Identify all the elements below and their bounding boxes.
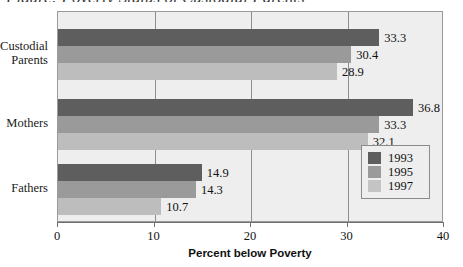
chart-legend: 199319951997 <box>361 145 430 199</box>
category-label-2: Fathers <box>0 181 53 195</box>
bar-1995-1 <box>58 116 379 133</box>
cut-off-title: Figure: Poverty Status of Custodial Pare… <box>0 0 463 2</box>
x-tick <box>154 222 155 227</box>
bar-row: 10.7 <box>58 198 442 215</box>
x-tick <box>250 222 251 227</box>
bar-1997-1 <box>58 133 368 150</box>
bar-1993-0 <box>58 29 379 46</box>
bar-group: 33.330.428.9 <box>58 29 442 80</box>
bar-row: 36.8 <box>58 99 442 116</box>
x-tick <box>443 222 444 227</box>
bar-value-label: 14.3 <box>196 182 223 197</box>
x-tick-label: 40 <box>437 229 450 244</box>
bar-1993-2 <box>58 164 202 181</box>
x-tick-label: 0 <box>54 229 60 244</box>
bar-value-label: 33.3 <box>379 30 406 45</box>
bar-1993-1 <box>58 99 413 116</box>
bar-1995-2 <box>58 181 196 198</box>
legend-label-1997: 1997 <box>388 180 413 193</box>
bar-value-label: 28.9 <box>337 64 364 79</box>
bar-row: 28.9 <box>58 63 442 80</box>
legend-row: 1997 <box>368 179 425 193</box>
bar-row: 30.4 <box>58 46 442 63</box>
legend-label-1995: 1995 <box>388 166 413 179</box>
legend-row: 1995 <box>368 165 425 179</box>
category-label-1: Mothers <box>0 116 53 130</box>
bar-value-label: 30.4 <box>351 47 378 62</box>
x-tick <box>347 222 348 227</box>
x-tick-label: 30 <box>340 229 353 244</box>
bar-value-label: 33.3 <box>379 117 406 132</box>
bar-1997-0 <box>58 63 337 80</box>
legend-swatch-1993 <box>368 152 381 164</box>
x-tick <box>57 222 58 227</box>
bar-1997-2 <box>58 198 161 215</box>
legend-label-1993: 1993 <box>388 152 413 165</box>
bar-group: 36.833.332.1 <box>58 99 442 150</box>
x-tick-label: 20 <box>244 229 257 244</box>
bar-value-label: 36.8 <box>413 100 440 115</box>
category-axis-labels: Custodial ParentsMothersFathers <box>0 11 53 222</box>
bar-row: 33.3 <box>58 29 442 46</box>
category-label-0: Custodial Parents <box>0 39 53 67</box>
x-axis-title: Percent below Poverty <box>57 247 443 259</box>
plot-area: 33.330.428.936.833.332.114.914.310.7 199… <box>57 11 443 222</box>
legend-swatch-1997 <box>368 180 381 192</box>
bar-row: 33.3 <box>58 116 442 133</box>
bar-1995-0 <box>58 46 351 63</box>
x-tick-label: 10 <box>147 229 160 244</box>
legend-swatch-1995 <box>368 166 381 178</box>
bar-value-label: 14.9 <box>202 165 229 180</box>
legend-row: 1993 <box>368 151 425 165</box>
bar-value-label: 10.7 <box>161 199 188 214</box>
